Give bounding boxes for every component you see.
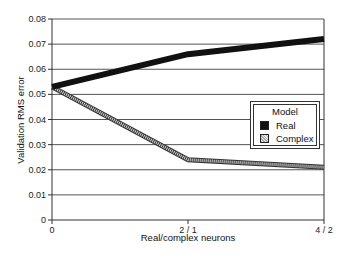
- y-tick-label: 0.07: [28, 39, 46, 49]
- chart-legend: Model Real Complex: [250, 101, 320, 149]
- legend-frame: Model Real Complex: [253, 104, 317, 146]
- legend-item-real: Real: [260, 120, 296, 131]
- x-tick-label: 4 / 2: [315, 225, 333, 235]
- series-real-line: [52, 39, 324, 87]
- legend-swatch-complex: [260, 134, 269, 143]
- y-tick-label: 0.08: [28, 14, 46, 24]
- x-axis-label: Real/complex neurons: [141, 232, 236, 243]
- legend-title: Model: [254, 106, 316, 117]
- legend-label-complex: Complex: [276, 133, 314, 144]
- y-tick-label: 0.03: [28, 140, 46, 150]
- legend-label-real: Real: [276, 120, 296, 131]
- y-tick-label: 0.02: [28, 165, 46, 175]
- y-axis-label: Validation RMS error: [15, 76, 26, 163]
- y-tick-label: 0.05: [28, 89, 46, 99]
- y-tick-label: 0.01: [28, 190, 46, 200]
- y-tick-label: 0.06: [28, 64, 46, 74]
- legend-swatch-real: [260, 121, 269, 130]
- y-tick-label: 0: [41, 215, 46, 225]
- y-tick-label: 0.04: [28, 115, 46, 125]
- legend-item-complex: Complex: [260, 133, 314, 144]
- x-tick-label: 0: [49, 225, 54, 235]
- y-axis-ticks: 00.010.020.030.040.050.060.070.08: [28, 14, 52, 225]
